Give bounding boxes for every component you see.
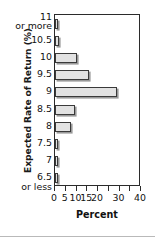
bar-chart-figure: Expected Rate of Return (%) 11or more10.…: [0, 0, 155, 247]
y-tick-label: 11or more: [6, 12, 52, 31]
bar: [55, 156, 58, 166]
x-tick-mark: [129, 186, 130, 191]
y-tick-label: 8: [6, 121, 52, 131]
y-tick-label: 6.5or less: [6, 172, 52, 191]
bar: [55, 122, 71, 132]
bar: [55, 19, 58, 29]
x-tick-mark: [119, 186, 120, 191]
x-tick-label: 30: [113, 192, 125, 203]
x-tick-mark: [54, 186, 55, 191]
x-tick-mark: [65, 186, 66, 191]
bar: [55, 53, 77, 63]
y-tick-label-sub: or more: [6, 21, 52, 31]
x-tick-label: 0: [51, 192, 57, 203]
y-tick-label: 8.5: [6, 104, 52, 114]
plot-area: [54, 14, 140, 186]
x-axis-tick-labels: 051015203040: [40, 192, 155, 205]
x-axis-title: Percent: [54, 209, 140, 220]
bar: [55, 36, 59, 46]
bar: [55, 87, 117, 97]
y-axis-tick-labels: 11or more10.5109.598.587.576.5or less: [6, 14, 52, 186]
x-tick-mark: [108, 186, 109, 191]
y-tick-label: 10: [6, 52, 52, 62]
y-tick-label: 7.5: [6, 138, 52, 148]
x-tick-mark: [97, 186, 98, 191]
footer-divider: [0, 236, 155, 237]
bar: [55, 70, 89, 80]
x-tick-label: 20: [91, 192, 103, 203]
x-tick-mark: [140, 186, 141, 191]
x-axis-ticks: [54, 186, 140, 191]
y-tick-label-sub: or less: [6, 182, 52, 192]
x-tick-label: 40: [134, 192, 146, 203]
y-tick-label: 7: [6, 155, 52, 165]
x-tick-mark: [76, 186, 77, 191]
x-tick-label: 5: [62, 192, 68, 203]
y-tick-label: 9: [6, 86, 52, 96]
bar: [55, 105, 75, 115]
bar: [55, 173, 58, 183]
y-tick-label: 9.5: [6, 69, 52, 79]
y-tick-label: 10.5: [6, 35, 52, 45]
x-tick-mark: [86, 186, 87, 191]
bar: [55, 139, 58, 149]
